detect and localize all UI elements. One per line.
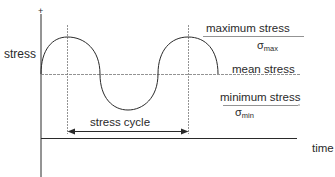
arrow-right-head: [181, 129, 189, 135]
y-axis-label: stress: [4, 47, 36, 61]
x-axis-label: time: [312, 142, 334, 154]
stress-cycle-label: stress cycle: [90, 116, 150, 128]
mean-stress-label: mean stress: [232, 63, 295, 75]
min-symbol: σmin: [235, 106, 254, 120]
arrow-left-head: [68, 129, 76, 135]
max-symbol: σmax: [257, 39, 278, 53]
stress-cycle-diagram: + stress time maximum stress σmax mean s…: [0, 0, 335, 177]
max-stress-label: maximum stress: [206, 22, 290, 34]
y-axis-plus: +: [38, 6, 43, 16]
min-stress-label: minimum stress: [220, 91, 301, 103]
